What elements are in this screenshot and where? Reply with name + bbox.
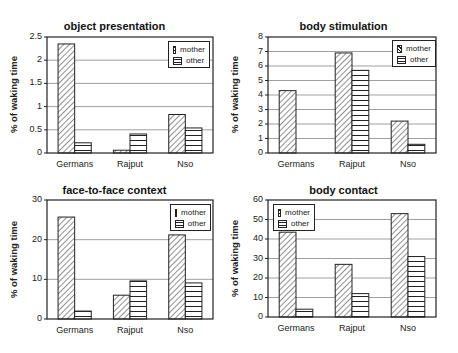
y-tick-label: 30	[18, 194, 42, 204]
legend-item-mother: mother	[175, 207, 206, 218]
legend: motherother	[170, 204, 211, 231]
bar-other-nso	[185, 283, 202, 319]
y-tick-label: 6	[239, 60, 263, 70]
horizontal-hatch-swatch-icon	[397, 56, 406, 64]
bar-other-nso	[408, 257, 425, 317]
bar-other-germans	[75, 143, 92, 153]
horizontal-hatch-swatch-icon	[278, 220, 287, 228]
legend-item-other: other	[397, 54, 431, 65]
y-tick-label: 1	[18, 101, 42, 111]
bar-other-germans	[75, 311, 92, 319]
diagonal-hatch-swatch-icon	[278, 209, 281, 217]
y-axis-label: % of waking time	[8, 200, 19, 319]
x-category-label: Germans	[50, 325, 100, 335]
x-category-label: Rajput	[327, 159, 377, 169]
bar-mother-germans	[279, 232, 296, 317]
bar-other-nso	[408, 144, 425, 153]
legend-item-other: other	[175, 218, 206, 229]
bar-other-rajput	[130, 281, 147, 319]
chart-panel-object-presentation: object presentation00.511.522.5% of waki…	[0, 0, 229, 176]
x-category-label: Rajput	[327, 323, 377, 333]
y-tick-label: 5	[239, 75, 263, 85]
y-tick-label: 10	[18, 273, 42, 283]
y-tick-label: 20	[18, 234, 42, 244]
legend-item-other: other	[278, 218, 310, 229]
y-tick-label: 4	[239, 89, 263, 99]
chart-panel-face-to-face-context: face-to-face context0102030% of waking t…	[0, 176, 229, 352]
y-tick-label: 10	[239, 292, 263, 302]
x-category-label: Germans	[50, 159, 100, 169]
y-tick-label: 0	[18, 313, 42, 323]
y-tick-label: 7	[239, 46, 263, 56]
bar-mother-rajput	[113, 295, 130, 319]
x-category-label: Nso	[383, 159, 433, 169]
legend: motherother	[273, 204, 315, 231]
y-tick-label: 1	[239, 133, 263, 143]
y-tick-label: 0	[239, 311, 263, 321]
legend-label: mother	[180, 45, 205, 54]
diagonal-hatch-swatch-icon	[173, 46, 176, 54]
legend-label: other	[186, 56, 204, 65]
bar-mother-nso	[391, 121, 408, 153]
bar-mother-germans	[279, 91, 296, 153]
y-tick-label: 0.5	[18, 124, 42, 134]
y-tick-label: 50	[239, 214, 263, 224]
bar-mother-germans	[58, 217, 75, 319]
bar-mother-germans	[58, 44, 75, 153]
bar-mother-nso	[169, 114, 186, 153]
chart-panel-body-stimulation: body stimulation012345678% of waking tim…	[229, 0, 458, 176]
legend-label: other	[410, 55, 428, 64]
x-category-label: Nso	[383, 323, 433, 333]
y-tick-label: 0	[18, 147, 42, 157]
bar-mother-rajput	[335, 264, 352, 317]
y-tick-label: 2	[239, 118, 263, 128]
legend: motherother	[392, 40, 436, 67]
y-axis-label: % of waking time	[8, 37, 19, 153]
bar-other-nso	[185, 128, 202, 153]
y-tick-label: 2.5	[18, 31, 42, 41]
legend-item-other: other	[173, 55, 205, 66]
y-tick-label: 2	[18, 54, 42, 64]
legend-item-mother: mother	[173, 44, 205, 55]
y-tick-label: 1.5	[18, 77, 42, 87]
y-tick-label: 60	[239, 194, 263, 204]
bar-mother-nso	[391, 214, 408, 317]
legend-label: other	[291, 219, 309, 228]
chart-panel-body-contact: body contact0102030405060% of waking tim…	[229, 176, 458, 352]
legend-label: other	[188, 219, 206, 228]
y-tick-label: 40	[239, 233, 263, 243]
bar-other-rajput	[352, 70, 369, 153]
y-axis-label: % of waking time	[229, 37, 240, 153]
legend-item-mother: mother	[397, 43, 431, 54]
y-tick-label: 20	[239, 272, 263, 282]
bar-chart	[229, 0, 458, 176]
horizontal-hatch-swatch-icon	[175, 220, 184, 228]
x-category-label: Germans	[271, 323, 321, 333]
bar-other-germans	[296, 309, 313, 317]
bar-mother-nso	[169, 235, 186, 319]
legend-item-mother: mother	[278, 207, 310, 218]
legend-label: mother	[181, 208, 206, 217]
bar-mother-rajput	[335, 53, 352, 153]
legend: motherother	[168, 41, 210, 68]
legend-label: mother	[285, 208, 310, 217]
bar-other-rajput	[352, 294, 369, 317]
x-category-label: Nso	[160, 325, 210, 335]
diagonal-hatch-swatch-icon	[175, 209, 177, 217]
x-category-label: Rajput	[105, 159, 155, 169]
bar-other-rajput	[130, 134, 147, 153]
y-tick-label: 8	[239, 31, 263, 41]
y-axis-label: % of waking time	[229, 200, 240, 317]
y-tick-label: 30	[239, 253, 263, 263]
horizontal-hatch-swatch-icon	[173, 57, 182, 65]
y-tick-label: 0	[239, 147, 263, 157]
x-category-label: Germans	[271, 159, 321, 169]
legend-label: mother	[406, 44, 431, 53]
diagonal-hatch-swatch-icon	[397, 45, 402, 53]
y-tick-label: 3	[239, 104, 263, 114]
x-category-label: Rajput	[105, 325, 155, 335]
x-category-label: Nso	[160, 159, 210, 169]
